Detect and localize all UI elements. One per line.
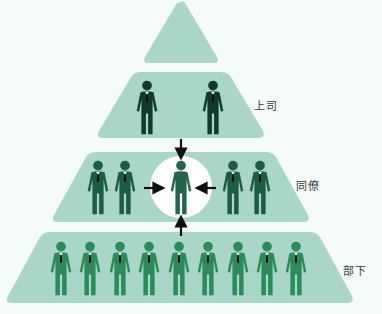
label-boss: 上司 <box>254 97 277 113</box>
pyramid-diagram <box>0 0 382 314</box>
tier-boss <box>98 72 264 138</box>
label-subordinates: 部下 <box>343 262 366 278</box>
label-peers: 同僚 <box>296 177 319 193</box>
tier-top <box>144 1 218 63</box>
